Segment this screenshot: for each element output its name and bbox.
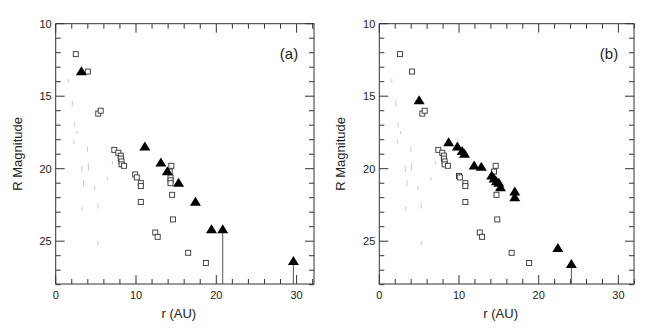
noise-speck xyxy=(411,163,412,171)
noise-speck xyxy=(112,161,113,164)
noise-speck xyxy=(421,204,422,209)
data-point-square xyxy=(138,184,143,189)
series-filled-triangle-with-drop-line xyxy=(566,259,577,284)
data-point-square xyxy=(170,217,175,222)
data-point-triangle xyxy=(217,224,228,233)
x-axis: 0102030r (AU) xyxy=(53,24,313,321)
data-point-square xyxy=(203,260,208,265)
noise-speck xyxy=(395,101,396,107)
noise-speck xyxy=(94,186,95,190)
noise-speck xyxy=(406,180,407,186)
data-point-square xyxy=(445,163,450,168)
noise-speck xyxy=(410,147,411,152)
figure: 0102030r (AU)10152025R Magnitude(a) 0102… xyxy=(0,0,652,335)
panel-b: 0102030r (AU)10152025R Magnitude(b) xyxy=(333,18,634,321)
noise-speck xyxy=(400,131,401,134)
data-point-triangle xyxy=(173,178,184,187)
noise-speck xyxy=(421,241,422,245)
plot-frame xyxy=(379,24,634,284)
data-point-triangle xyxy=(190,197,201,206)
data-point-square xyxy=(169,163,174,168)
data-point-square xyxy=(495,217,500,222)
noise-speck xyxy=(97,241,98,245)
noise-speck xyxy=(77,131,78,134)
background-noise xyxy=(391,79,436,245)
data-point-triangle xyxy=(139,142,150,151)
data-point-triangle xyxy=(552,243,563,252)
data-point-square xyxy=(134,175,139,180)
noise-speck xyxy=(81,166,82,172)
data-point-square xyxy=(527,260,532,265)
noise-speck xyxy=(418,186,419,190)
y-axis-title: R Magnitude xyxy=(333,117,348,191)
y-tick-label: 20 xyxy=(363,163,375,175)
x-tick-label: 30 xyxy=(290,289,302,301)
data-point-square xyxy=(422,108,427,113)
panel-label: (a) xyxy=(280,45,298,62)
data-point-square xyxy=(509,250,514,255)
noise-speck xyxy=(107,177,108,180)
data-point-square xyxy=(457,175,462,180)
x-axis: 0102030r (AU) xyxy=(376,24,634,321)
noise-speck xyxy=(398,122,399,127)
data-point-triangle xyxy=(155,158,166,167)
x-tick-label: 10 xyxy=(130,289,142,301)
noise-speck xyxy=(397,140,398,144)
y-tick-label: 25 xyxy=(39,235,51,247)
data-point-square xyxy=(494,192,499,197)
data-point-square xyxy=(409,69,414,74)
data-point-square xyxy=(85,69,90,74)
panel-label: (b) xyxy=(600,45,618,62)
y-axis-title: R Magnitude xyxy=(10,117,25,191)
noise-speck xyxy=(68,79,69,83)
data-point-square xyxy=(73,52,78,57)
data-point-square xyxy=(493,163,498,168)
data-point-square xyxy=(155,234,160,239)
x-tick-label: 10 xyxy=(453,289,465,301)
noise-speck xyxy=(88,163,89,171)
data-point-square xyxy=(98,108,103,113)
y-tick-label: 20 xyxy=(39,163,51,175)
data-point-square xyxy=(170,192,175,197)
y-tick-label: 10 xyxy=(363,18,375,30)
noise-speck xyxy=(72,101,73,107)
series-filled-triangle xyxy=(76,66,217,233)
background-noise xyxy=(68,79,113,245)
data-point-triangle xyxy=(288,256,299,265)
noise-speck xyxy=(97,204,98,209)
noise-speck xyxy=(73,140,74,144)
noise-speck xyxy=(405,206,406,210)
series-open-square xyxy=(73,52,208,266)
x-axis-title: r (AU) xyxy=(162,306,197,321)
noise-speck xyxy=(87,147,88,152)
x-tick-label: 20 xyxy=(210,289,222,301)
data-point-square xyxy=(186,250,191,255)
noise-speck xyxy=(83,180,84,186)
x-tick-label: 20 xyxy=(533,289,545,301)
y-axis: 10152025R Magnitude xyxy=(333,18,634,285)
data-point-square xyxy=(168,181,173,186)
data-point-triangle xyxy=(414,95,425,104)
x-tick-label: 0 xyxy=(376,289,382,301)
noise-speck xyxy=(430,177,431,180)
y-tick-label: 25 xyxy=(363,235,375,247)
noise-speck xyxy=(435,161,436,164)
panel-a: 0102030r (AU)10152025R Magnitude(a) xyxy=(10,18,314,321)
x-axis-title: r (AU) xyxy=(483,306,518,321)
y-tick-label: 15 xyxy=(363,90,375,102)
y-tick-label: 10 xyxy=(39,18,51,30)
data-point-square xyxy=(463,200,468,205)
noise-speck xyxy=(391,79,392,83)
data-point-triangle xyxy=(443,137,454,146)
series-filled-triangle-with-drop-line xyxy=(217,224,299,284)
plot-frame xyxy=(56,24,314,284)
data-point-triangle xyxy=(206,224,217,233)
data-point-square xyxy=(398,52,403,57)
noise-speck xyxy=(405,166,406,172)
noise-speck xyxy=(74,122,75,127)
series-filled-triangle xyxy=(414,95,564,252)
noise-speck xyxy=(81,206,82,210)
data-point-square xyxy=(480,234,485,239)
data-point-square xyxy=(138,200,143,205)
data-point-triangle xyxy=(566,259,577,268)
